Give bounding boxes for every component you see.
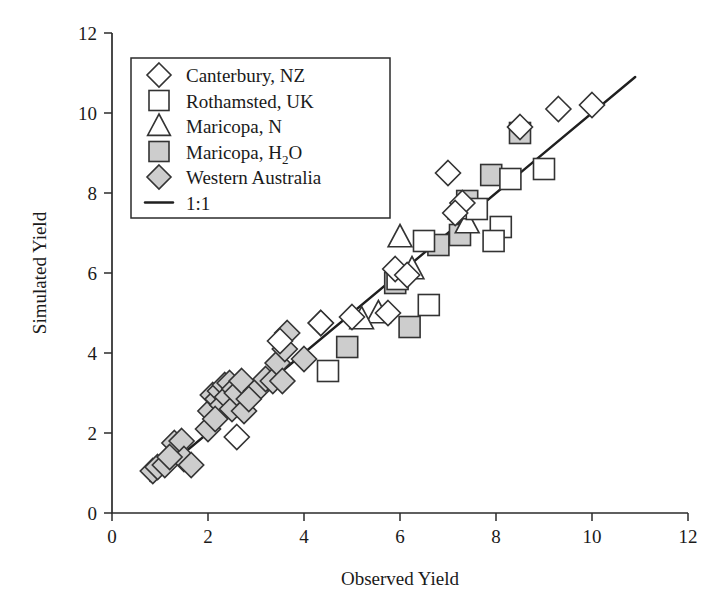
series-western-australia bbox=[140, 311, 333, 484]
legend-item-label: Rothamsted, UK bbox=[186, 91, 314, 112]
data-point bbox=[224, 425, 249, 450]
scatter-plot-figure: 024681012024681012Observed YieldSimulate… bbox=[0, 0, 725, 608]
data-point bbox=[318, 361, 339, 382]
data-point bbox=[534, 159, 555, 180]
y-tick-label: 2 bbox=[88, 423, 98, 444]
data-point bbox=[500, 169, 521, 190]
y-axis-title: Simulated Yield bbox=[29, 211, 50, 334]
data-point bbox=[418, 295, 439, 316]
data-point bbox=[414, 231, 435, 252]
legend-item-label: Maricopa, N bbox=[186, 116, 282, 137]
y-tick-label: 10 bbox=[78, 103, 97, 124]
legend: Canterbury, NZRothamsted, UKMaricopa, NM… bbox=[131, 58, 390, 218]
x-tick-label: 8 bbox=[491, 526, 501, 547]
data-point bbox=[337, 337, 358, 358]
data-point bbox=[399, 317, 420, 338]
y-tick-label: 12 bbox=[78, 23, 97, 44]
y-tick-label: 0 bbox=[88, 503, 98, 524]
legend-item-label: Canterbury, NZ bbox=[186, 65, 305, 86]
x-tick-label: 12 bbox=[679, 526, 698, 547]
data-point bbox=[546, 97, 571, 122]
data-point bbox=[580, 93, 605, 118]
legend-item-label: 1:1 bbox=[186, 193, 210, 214]
data-point bbox=[436, 161, 461, 186]
x-tick-label: 0 bbox=[107, 526, 117, 547]
x-tick-label: 4 bbox=[299, 526, 309, 547]
x-tick-label: 6 bbox=[395, 526, 405, 547]
data-point bbox=[388, 225, 412, 247]
y-tick-label: 6 bbox=[88, 263, 98, 284]
plot-canvas: 024681012024681012Observed YieldSimulate… bbox=[0, 0, 725, 608]
y-tick-label: 4 bbox=[88, 343, 98, 364]
y-tick-label: 8 bbox=[88, 183, 98, 204]
data-point bbox=[483, 231, 504, 252]
square-open-icon bbox=[149, 91, 169, 111]
x-tick-label: 2 bbox=[203, 526, 213, 547]
data-point bbox=[481, 165, 502, 186]
x-axis-title: Observed Yield bbox=[341, 568, 460, 589]
legend-item-label: Western Australia bbox=[186, 167, 322, 188]
x-tick-label: 10 bbox=[583, 526, 602, 547]
square-gray-icon bbox=[149, 142, 169, 162]
